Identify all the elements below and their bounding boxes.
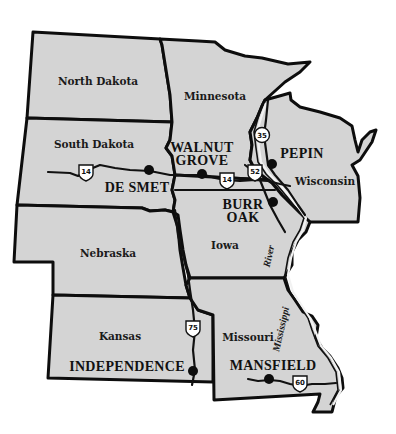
svg-text:52: 52 (250, 168, 260, 176)
town-dot-mansfield (264, 374, 274, 384)
town-label-de-smet: DE SMET (105, 180, 170, 195)
town-dot-de-smet (144, 165, 154, 175)
town-label-pepin: PEPIN (280, 146, 324, 161)
svg-text:35: 35 (257, 132, 267, 140)
svg-text:14: 14 (81, 168, 91, 176)
state-south-dakota (17, 118, 175, 212)
state-label-iowa: Iowa (211, 239, 239, 251)
svg-text:14: 14 (222, 176, 232, 184)
town-label-mansfield: MANSFIELD (230, 358, 317, 373)
midwest-map: 14 14 35 52 75 60 North Dakota South Dak… (0, 0, 396, 434)
state-label-missouri: Missouri (222, 331, 274, 343)
svg-text:75: 75 (188, 324, 198, 332)
town-dot-independence (188, 366, 198, 376)
svg-text:60: 60 (295, 379, 305, 387)
state-label-minnesota: Minnesota (184, 90, 246, 102)
highway-shield-35: 35 (255, 128, 270, 143)
highway-shield-75: 75 (186, 321, 200, 337)
state-label-wisconsin: Wisconsin (294, 175, 355, 187)
highway-shield-14-west: 14 (79, 165, 93, 181)
state-label-kansas: Kansas (99, 330, 141, 342)
town-label-burr-oak-line2: OAK (227, 210, 260, 225)
town-label-independence: INDEPENDENCE (69, 359, 185, 374)
state-label-north-dakota: North Dakota (58, 75, 138, 87)
state-label-nebraska: Nebraska (80, 247, 136, 259)
town-label-walnut-grove-line2: GROVE (176, 153, 229, 168)
state-label-south-dakota: South Dakota (54, 138, 134, 150)
town-dot-burr-oak (268, 197, 278, 207)
highway-shield-14-east: 14 (220, 173, 234, 189)
highway-shield-60: 60 (293, 376, 307, 392)
town-dot-pepin (267, 159, 277, 169)
town-dot-walnut-grove (197, 169, 207, 179)
highway-shield-52: 52 (248, 165, 262, 181)
